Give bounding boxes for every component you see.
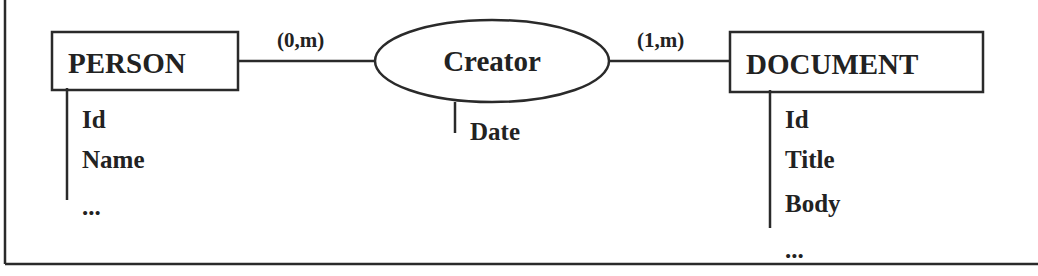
- relationship-attribute: Date: [470, 118, 520, 145]
- document-attribute: Body: [785, 190, 841, 217]
- relationship-creator[interactable]: Creator: [375, 20, 609, 102]
- cardinality-person: (0,m): [277, 28, 324, 52]
- document-attribute: Id: [785, 106, 809, 133]
- document-attribute: Title: [785, 146, 835, 173]
- cardinality-document: (1,m): [637, 28, 684, 52]
- document-attribute: ...: [785, 236, 804, 263]
- person-attribute: Id: [82, 106, 106, 133]
- entity-person-attributes: Id Name ...: [67, 88, 144, 220]
- entity-document[interactable]: DOCUMENT: [730, 32, 983, 92]
- relationship-attributes: Date: [455, 102, 520, 145]
- entity-person-label: PERSON: [68, 47, 186, 79]
- entity-person[interactable]: PERSON: [52, 32, 238, 90]
- er-diagram: PERSON Id Name ... (0,m) Creator Date (1…: [0, 0, 1038, 276]
- entity-document-attributes: Id Title Body ...: [770, 90, 841, 263]
- person-attribute: ...: [82, 193, 101, 220]
- person-attribute: Name: [82, 146, 144, 173]
- relationship-creator-label: Creator: [443, 45, 541, 77]
- entity-document-label: DOCUMENT: [746, 48, 918, 80]
